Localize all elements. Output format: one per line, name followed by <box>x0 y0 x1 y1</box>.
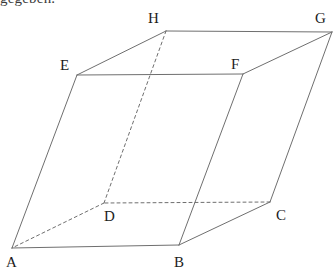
edge-cd <box>104 202 270 203</box>
edge-he <box>77 31 166 75</box>
edge-ae <box>12 75 77 248</box>
vertex-label-e: E <box>60 58 69 73</box>
edge-ef <box>77 74 243 75</box>
vertex-label-c: C <box>276 208 286 223</box>
edge-cg <box>270 32 332 202</box>
vertex-label-g: G <box>315 11 326 26</box>
figure-screenshot: gegeben. ABCDEFGH <box>0 0 334 277</box>
vertex-label-f: F <box>231 57 239 72</box>
edge-ab <box>12 245 179 248</box>
edge-gh <box>166 31 332 32</box>
edge-da <box>12 203 104 248</box>
vertex-label-b: B <box>174 255 184 270</box>
vertex-label-a: A <box>6 255 17 270</box>
vertex-label-h: H <box>148 11 159 26</box>
parallelepiped-figure <box>0 0 334 277</box>
vertex-label-d: D <box>104 209 115 224</box>
